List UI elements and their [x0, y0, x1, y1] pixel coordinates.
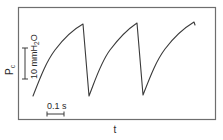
x-axis-label: t [114, 124, 117, 135]
horizontal-scale-bar: 0.1 s [47, 101, 67, 117]
horizontal-scale-label: 0.1 s [47, 101, 67, 111]
sawtooth-pressure-chart: 10 mmH2O Pc 0.1 s t [0, 0, 223, 140]
y-axis-label: Pc [4, 64, 16, 75]
vertical-scale-bar: 10 mmH2O [22, 34, 40, 79]
vertical-scale-label: 10 mmH2O [29, 34, 40, 79]
pressure-trace [33, 22, 195, 96]
